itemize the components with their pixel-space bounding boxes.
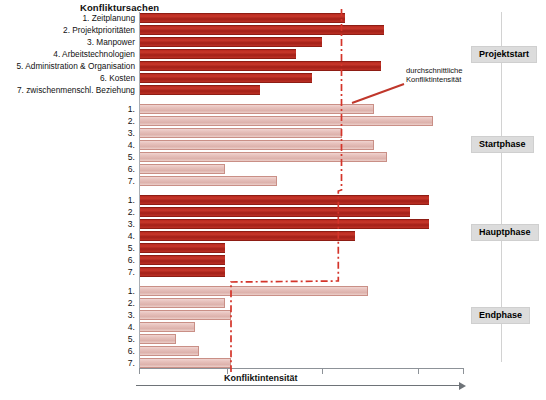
arrow-right-icon (459, 382, 466, 390)
intensity-direction-axis (136, 385, 462, 386)
chart-canvas: Konfliktursachen 1. Zeitplanung 2. Proje… (0, 0, 546, 400)
x-axis-title: Konfliktintensität (224, 373, 298, 383)
annotation-leader-line (352, 84, 404, 103)
intensity-overlay (0, 0, 546, 400)
average-intensity-line (231, 9, 342, 372)
